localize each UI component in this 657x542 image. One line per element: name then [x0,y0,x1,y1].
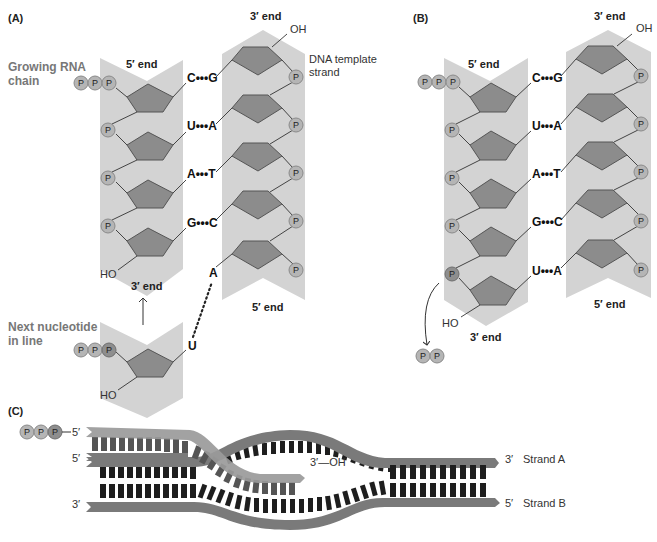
rna-3prime-hydroxyl-label: HO [100,268,117,280]
next-nucleotide-label: Next nucleotide [8,320,98,334]
dna-template-strand-label: DNA template [309,53,377,65]
base-pair-1: C•••G [532,71,563,85]
svg-text:P: P [106,78,112,88]
svg-text:P: P [420,351,426,361]
svg-text:P: P [92,78,98,88]
dna-5prime-end-label: 5′ end [594,298,625,310]
svg-text:P: P [638,265,644,275]
dna-5prime-end-label: 5′ end [252,301,283,313]
next-nucleotide-hydroxyl-label: HO [100,389,117,401]
dna-3prime-hydroxyl-label: OH [636,22,653,34]
rna-3prime-end-label: 3′ end [470,331,501,343]
growing-rna-chain-label: Growing RNA [8,60,86,74]
svg-text:P: P [293,168,299,178]
rna-3prime-oh-label: 3′—OH [310,456,346,468]
base-pair-3: A•••T [532,167,561,181]
panel-a-label: (A) [8,12,24,24]
svg-text:P: P [638,119,644,129]
svg-text:P: P [638,71,644,81]
rna-3prime-end-label: 3′ end [131,280,162,292]
rungs-left-lower [100,484,196,498]
svg-text:P: P [434,351,440,361]
dna-3prime-hydroxyl-label: OH [290,23,307,35]
base-pairs-a: C•••G U•••A A•••T G•••C A [187,71,218,280]
next-nucleotide-triphosphate: P P P [74,343,116,357]
strand-b-5prime-label: 5′ [505,497,513,509]
base-pair-2: U•••A [532,119,562,133]
base-pair-3: A•••T [187,167,216,181]
svg-text:P: P [449,221,455,231]
base-pair-5: U•••A [532,264,562,278]
release-arrow-icon [425,283,439,345]
strand-b-3prime-label: 3′ [72,498,80,510]
svg-text:P: P [52,427,58,437]
svg-text:P: P [450,77,456,87]
next-nucleotide-label-line2: in line [8,334,43,348]
svg-text:P: P [293,72,299,82]
rna-triphosphate: P P P [20,425,62,439]
rna-3prime-hydroxyl-label: HO [442,317,459,329]
rna-triphosphate: P P P [418,75,460,89]
svg-text:P: P [105,125,111,135]
next-nucleotide-base: U [188,339,197,353]
base-pair-1: C•••G [187,71,218,85]
svg-text:P: P [92,345,98,355]
svg-text:P: P [78,78,84,88]
strand-a-left-backbone [86,453,188,461]
svg-text:P: P [105,173,111,183]
dna-3prime-end-label: 3′ end [594,10,625,22]
base-pair-2: U•••A [187,119,217,133]
transcription-diagram: (A) 5′ end 3′ end Growing RNA chain 3′ e… [0,0,657,542]
rungs-right [390,465,486,497]
svg-text:P: P [449,125,455,135]
strand-a-label: Strand A [523,453,566,465]
svg-text:P: P [105,221,111,231]
panel-c-label: (C) [8,405,24,417]
base-pair-4: G•••C [532,215,563,229]
rna-5prime-end-label: 5′ end [468,58,499,70]
svg-text:P: P [449,269,455,279]
svg-text:P: P [449,173,455,183]
panel-b: (B) 5′ end 3′ end 3′ end 5′ end OH [413,10,653,363]
strand-a-3prime-label: 3′ [505,453,513,465]
svg-text:P: P [436,77,442,87]
svg-text:P: P [106,345,112,355]
pairing-dotted-line [193,282,212,337]
panel-a: (A) 5′ end 3′ end Growing RNA chain 3′ e… [8,10,377,418]
strand-a-5prime-label: 5′ [72,452,80,464]
svg-text:P: P [78,345,84,355]
released-pyrophosphate: P P [416,349,444,363]
rna-5prime-end-label: 5′ end [126,58,157,70]
svg-text:P: P [422,77,428,87]
svg-text:P: P [638,216,644,226]
rna-5prime-label: 5′ [72,426,80,438]
svg-text:P: P [293,120,299,130]
dna-3prime-end-label: 3′ end [250,10,281,22]
svg-text:P: P [38,427,44,437]
rungs-left-upper [92,437,188,455]
svg-text:P: P [24,427,30,437]
panel-b-label: (B) [413,12,429,24]
base-pairs-b: C•••G U•••A A•••T G•••C U•••A [532,71,563,278]
dna-template-strand-label-line2: strand [309,66,340,78]
panel-c: (C) [8,405,566,530]
svg-text:P: P [638,167,644,177]
svg-text:P: P [293,265,299,275]
rna-triphosphate: P P P [74,76,116,90]
growing-rna-chain-label-line2: chain [8,74,39,88]
svg-text:P: P [293,216,299,226]
unpaired-template-base: A [209,266,218,280]
base-pair-4: G•••C [187,216,218,230]
strand-b-label: Strand B [523,497,566,509]
